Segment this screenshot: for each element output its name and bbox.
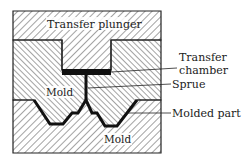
label-transfer-chamber-line2: chamber: [179, 64, 229, 77]
transfer-molding-diagram: Transfer plunger Mold Mold Transfer cham…: [0, 0, 244, 159]
lower-mold: [13, 100, 161, 153]
label-upper-mold: Mold: [46, 86, 73, 98]
label-transfer-plunger: Transfer plunger: [47, 18, 142, 31]
label-molded-part: Molded part: [172, 107, 241, 120]
sprue: [85, 75, 88, 100]
label-sprue: Sprue: [172, 78, 205, 91]
label-lower-mold: Mold: [104, 133, 131, 145]
transfer-chamber: [62, 69, 111, 75]
label-transfer-chamber-line1: Transfer: [179, 51, 227, 64]
